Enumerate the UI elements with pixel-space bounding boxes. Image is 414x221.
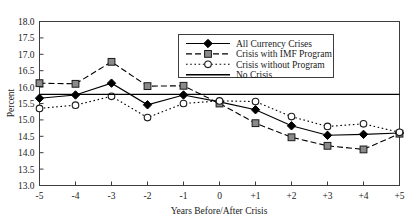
marker-square xyxy=(205,51,212,58)
y-tick-label: 16.0 xyxy=(18,83,35,93)
x-tick-label: 0 xyxy=(217,191,222,201)
y-tick-label: 14.5 xyxy=(18,132,35,142)
y-tick-label: 13.5 xyxy=(18,165,35,175)
marker-square xyxy=(180,82,187,89)
marker-circle xyxy=(72,102,79,109)
x-tick-label: +5 xyxy=(394,191,404,201)
x-tick-label: +4 xyxy=(358,191,368,201)
legend-label-2: Crisis without Program xyxy=(236,60,325,70)
marker-square xyxy=(252,120,259,127)
x-tick-label: +2 xyxy=(286,191,296,201)
chart-container: 13.013.514.014.515.015.516.016.517.017.5… xyxy=(0,0,414,221)
chart-legend: All Currency CrisesCrisis with IMF Progr… xyxy=(179,35,334,81)
marker-circle xyxy=(252,98,259,105)
x-tick-label: -5 xyxy=(36,191,44,201)
x-axis-title: Years Before/After Crisis xyxy=(171,206,268,216)
marker-square xyxy=(36,80,43,87)
marker-square xyxy=(72,80,79,87)
y-axis-title: Percent xyxy=(6,88,16,117)
marker-square xyxy=(144,83,151,90)
y-tick-label: 17.5 xyxy=(18,33,35,43)
chart-background xyxy=(0,0,414,221)
marker-circle xyxy=(288,113,295,120)
y-tick-label: 14.0 xyxy=(18,148,35,158)
line-chart: 13.013.514.014.515.015.516.016.517.017.5… xyxy=(0,0,414,221)
x-tick-label: -1 xyxy=(180,191,188,201)
legend-label-0: All Currency Crises xyxy=(236,39,312,49)
y-tick-label: 15.0 xyxy=(18,115,35,125)
x-tick-label: -4 xyxy=(72,191,80,201)
marker-circle xyxy=(205,61,212,68)
marker-circle xyxy=(324,123,331,130)
y-tick-label: 13.0 xyxy=(18,181,35,191)
marker-circle xyxy=(36,105,43,112)
marker-circle xyxy=(216,98,223,105)
marker-square xyxy=(288,134,295,141)
marker-square xyxy=(108,58,115,65)
marker-circle xyxy=(360,121,367,128)
marker-circle xyxy=(180,100,187,107)
marker-square xyxy=(324,142,331,149)
x-tick-label: -3 xyxy=(108,191,116,201)
marker-square xyxy=(360,146,367,153)
marker-circle xyxy=(396,129,403,136)
x-tick-label: -2 xyxy=(144,191,152,201)
legend-label-1: Crisis with IMF Program xyxy=(236,49,332,59)
y-tick-label: 17.0 xyxy=(18,50,35,60)
y-tick-label: 15.5 xyxy=(18,99,35,109)
y-tick-label: 18.0 xyxy=(18,17,35,27)
legend-label-3: No Crisis xyxy=(236,70,272,80)
x-tick-label: +1 xyxy=(250,191,260,201)
y-tick-label: 16.5 xyxy=(18,66,35,76)
marker-circle xyxy=(144,114,151,121)
y-axis-tick-labels: 13.013.514.014.515.015.516.016.517.017.5… xyxy=(18,17,35,191)
x-tick-label: +3 xyxy=(322,191,332,201)
